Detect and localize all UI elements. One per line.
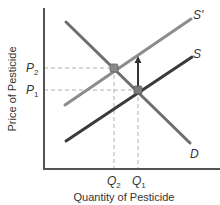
p1-tick-label: P1 [26,83,39,99]
q1-tick-label: Q1 [132,174,146,190]
supply-shifted-curve [65,19,191,105]
supply-label: S [193,47,201,61]
equilibrium-original-marker [134,86,142,94]
demand-curve [66,22,190,143]
supply-shifted-label: S' [193,8,204,22]
x-axis-title: Quantity of Pesticide [74,191,175,203]
equilibrium-new-marker [110,64,118,72]
p2-tick-label: P2 [26,61,39,77]
demand-label: D [190,147,199,161]
y-axis-title: Price of Pesticide [6,47,18,132]
supply-demand-chart: S' S D P2 P1 Q2 Q1 Quantity of Pesticide… [0,0,220,205]
shift-arrow [135,56,142,87]
q2-tick-label: Q2 [107,174,121,190]
guide-lines [44,68,138,169]
